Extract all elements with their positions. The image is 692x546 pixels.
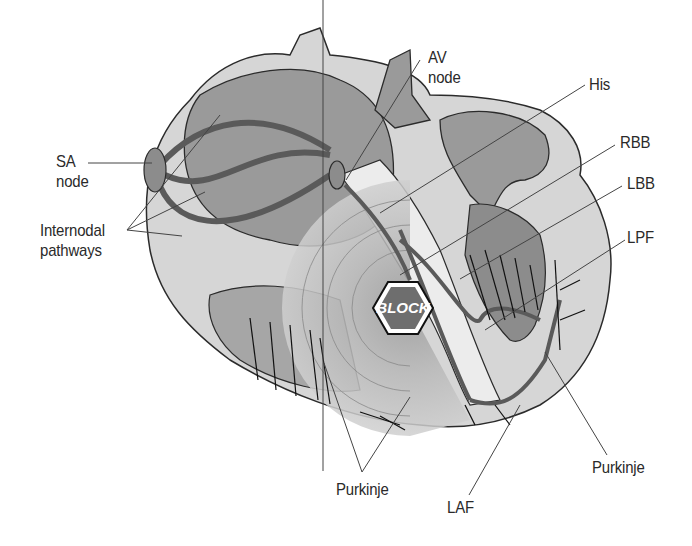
label-purkinje-left: Purkinje: [336, 480, 389, 500]
label-laf: LAF: [447, 498, 474, 518]
label-lpf: LPF: [627, 228, 654, 248]
label-sa-line1: SA: [56, 152, 89, 172]
label-his: His: [589, 75, 610, 95]
label-rbb: RBB: [620, 133, 650, 153]
label-internodal-pathways: Internodal pathways: [40, 221, 105, 261]
label-av-line2: node: [428, 68, 461, 88]
heart-conduction-diagram: BLOCK SA node Internodal pathways AV: [0, 0, 692, 546]
label-sa-node: SA node: [56, 152, 89, 192]
label-lbb: LBB: [627, 174, 655, 194]
av-node: [329, 161, 345, 189]
block-label: BLOCK: [376, 299, 430, 316]
label-av-line1: AV: [428, 48, 461, 68]
label-internodal-line1: Internodal: [40, 221, 105, 241]
label-sa-line2: node: [56, 172, 89, 192]
label-internodal-line2: pathways: [40, 241, 105, 261]
label-av-node: AV node: [428, 48, 461, 88]
label-purkinje-right: Purkinje: [592, 458, 645, 478]
